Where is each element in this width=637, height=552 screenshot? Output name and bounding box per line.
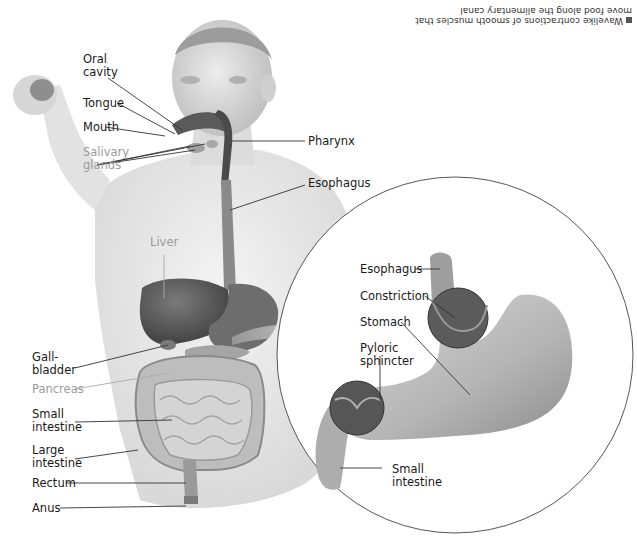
label-line: bladder: [32, 364, 76, 377]
label-line: Stomach: [360, 316, 411, 329]
label-large-intestine: Large intestine: [32, 444, 82, 470]
label-oral-cavity: Oral cavity: [83, 53, 118, 79]
digestive-system-diagram: Wavelike contractions of smooth muscles …: [0, 0, 637, 552]
label-inset-esophagus: Esophagus: [360, 263, 423, 276]
label-line: cavity: [83, 66, 118, 79]
label-gallbladder: Gall- bladder: [32, 351, 76, 377]
label-rectum: Rectum: [32, 477, 76, 490]
label-pyloric-sphincter: Pyloric sphincter: [360, 342, 414, 368]
label-line: intestine: [392, 476, 442, 489]
label-line: sphincter: [360, 355, 414, 368]
caption-text: Wavelike contractions of smooth muscles …: [415, 6, 632, 26]
label-line: Esophagus: [360, 263, 423, 276]
square-bullet-icon: [626, 18, 632, 24]
label-pharynx: Pharynx: [308, 135, 355, 148]
label-stomach: Stomach: [360, 316, 411, 329]
label-line: Tongue: [83, 97, 124, 110]
label-line: Mouth: [83, 121, 119, 134]
label-liver: Liver: [150, 236, 178, 249]
label-line: Constriction: [360, 290, 429, 303]
label-tongue: Tongue: [83, 97, 124, 110]
label-line: intestine: [32, 457, 82, 470]
label-line: intestine: [32, 421, 82, 434]
label-salivary-glands: Salivary glands: [83, 146, 129, 172]
label-line: Pharynx: [308, 135, 355, 148]
anatomy-illustration: [0, 0, 637, 552]
label-inset-small-intestine: Small intestine: [392, 463, 442, 489]
label-mouth: Mouth: [83, 121, 119, 134]
label-esophagus: Esophagus: [308, 177, 371, 190]
label-constriction: Constriction: [360, 290, 429, 303]
label-small-intestine: Small intestine: [32, 408, 82, 434]
label-line: Rectum: [32, 477, 76, 490]
label-pancreas: Pancreas: [32, 383, 84, 396]
label-line: Liver: [150, 236, 178, 249]
label-line: Anus: [32, 502, 60, 515]
caption: Wavelike contractions of smooth muscles …: [392, 6, 632, 26]
label-line: Esophagus: [308, 177, 371, 190]
label-line: Pancreas: [32, 383, 84, 396]
label-line: glands: [83, 159, 129, 172]
label-anus: Anus: [32, 502, 60, 515]
